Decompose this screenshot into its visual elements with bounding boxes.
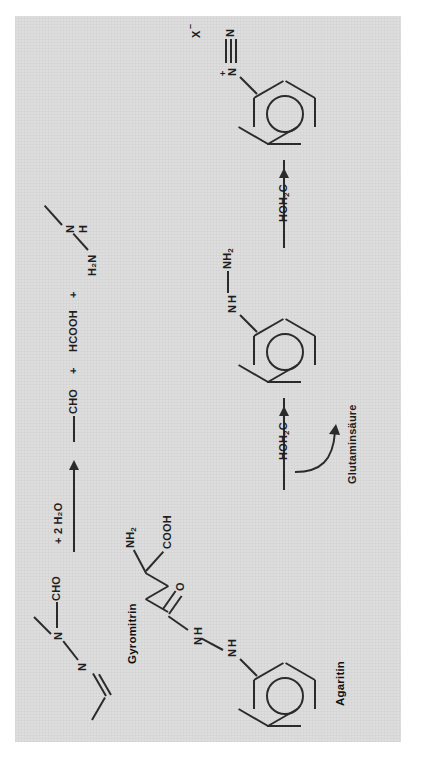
gyromitrin-cho-label: CHO: [51, 576, 62, 601]
plus-sign-2: +: [68, 291, 79, 298]
methylhydrazine-h2n-label: H₂N: [87, 255, 98, 276]
intermediate-benzene-ring: [251, 324, 317, 382]
label-gyromitrin: Gyromitrin: [127, 603, 138, 664]
agaritin-hydrazide-n2-label: N: [227, 649, 238, 657]
agaritin-cooh-label: COOH: [162, 515, 173, 549]
gyromitrin-n1-label: N: [77, 663, 88, 671]
product-triple-bond-3: [235, 39, 237, 63]
arrow-hydrolysis-head: [69, 460, 79, 470]
acetaldehyde-bond: [73, 416, 75, 442]
plus-sign-1: +: [68, 367, 79, 374]
intermediate-bond-nn: [227, 271, 229, 293]
agaritin-chain-bond-2: [146, 585, 170, 600]
gyromitrin-bond-nn: [62, 640, 78, 660]
intermediate-bond-ch2oh: [283, 398, 285, 416]
intermediate-n-label: N: [227, 305, 238, 313]
methylhydrazine-bond-nn: [73, 233, 89, 251]
intermediate-nh2-label: NH2: [222, 248, 236, 269]
product-diazo-charge-label: +: [218, 71, 229, 76]
product-counter-ion-charge-label: –: [185, 24, 196, 29]
scan-panel: N N CHO Gyromitrin + 2 H₂O CHO + HCOOH: [15, 16, 401, 742]
acetaldehyde-cho-label: CHO: [68, 389, 79, 414]
intermediate-hoh2c-label: HOH2C: [278, 422, 292, 460]
curved-leaving-arrow: [295, 420, 341, 474]
product-counter-ion-label: X: [191, 30, 202, 38]
agaritin-nh2-label: NH2: [125, 527, 139, 548]
methylhydrazine-n-label: N: [65, 225, 76, 233]
agaritin-bond-n-co: [168, 615, 189, 630]
figure-page: N N CHO Gyromitrin + 2 H₂O CHO + HCOOH: [0, 0, 424, 770]
product-diazo-n-top-label: N: [225, 29, 236, 37]
arrow-hydrolysis-shaft: [73, 468, 75, 552]
agaritin-hydrazide-n1-label: N: [193, 637, 204, 645]
product-triple-bond-1: [225, 39, 227, 63]
gyromitrin-bond-nme: [33, 616, 51, 634]
methylhydrazine-bond-nme: [44, 205, 63, 226]
intermediate-h-label: H: [227, 295, 238, 303]
label-agaritin: Agaritin: [335, 661, 346, 706]
formic-acid-label: HCOOH: [68, 310, 79, 352]
gyromitrin-bond-c1: [91, 697, 106, 721]
label-glutaminsaeure: Glutaminsäure: [347, 404, 358, 484]
methylhydrazine-h-label: H: [78, 225, 89, 233]
agaritin-carbonyl-o-label: O: [175, 582, 186, 591]
agaritin-benzene-ring: [251, 668, 317, 726]
product-hoh2c-label: HOH2C: [278, 184, 292, 222]
agaritin-bond-cooh: [145, 551, 164, 572]
agaritin-chain-bond-3: [145, 572, 169, 587]
product-triple-bond-2: [230, 39, 232, 63]
agaritin-hydrazide-h1-label: H: [193, 627, 204, 635]
reaction-scheme: N N CHO Gyromitrin + 2 H₂O CHO + HCOOH: [15, 16, 401, 742]
agaritin-hydrazide-h2-label: H: [227, 639, 238, 647]
arrow-hydrolysis-label: + 2 H₂O: [53, 503, 64, 544]
product-benzene-ring: [251, 86, 317, 144]
gyromitrin-n2-label: N: [53, 632, 64, 640]
gyromitrin-bond-ncho: [56, 602, 58, 628]
product-bond-ch2oh: [283, 160, 285, 178]
agaritin-bond-nn: [201, 638, 223, 651]
